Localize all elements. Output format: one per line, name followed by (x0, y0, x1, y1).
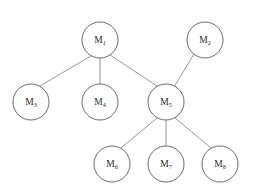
node-m2[interactable]: M2 (187, 22, 223, 58)
node-m3[interactable]: M3 (13, 84, 49, 120)
node-m5[interactable]: M5 (148, 84, 184, 120)
node-m8[interactable]: M8 (202, 146, 238, 182)
node-m1[interactable]: M1 (82, 22, 118, 58)
edge-m1-m5 (110, 55, 157, 86)
node-m7[interactable]: M7 (148, 146, 184, 182)
edge-m2-m5 (174, 54, 194, 87)
node-m6[interactable]: M6 (94, 146, 130, 182)
edge-m5-m6 (121, 118, 157, 148)
node-m4[interactable]: M4 (82, 84, 118, 120)
nodes-layer: M1M2M3M4M5M6M7M8 (13, 22, 238, 182)
edges-layer (40, 54, 211, 148)
tree-diagram: M1M2M3M4M5M6M7M8 (0, 0, 253, 194)
graph-canvas: M1M2M3M4M5M6M7M8 (0, 0, 253, 194)
edge-m5-m8 (175, 118, 211, 148)
edge-m1-m3 (40, 56, 91, 86)
